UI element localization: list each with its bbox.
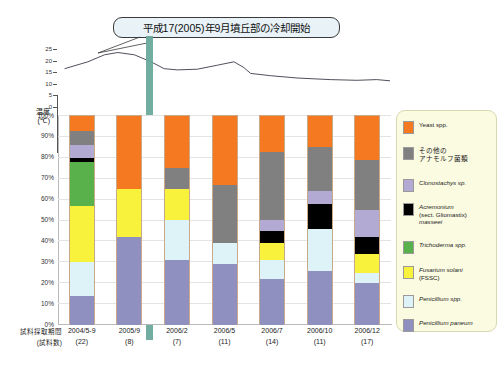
x-axis-sample-count: (7) <box>150 336 204 347</box>
bar-segment <box>355 210 379 237</box>
cooling-start-callout-text: 平成17(2005)年9月墳丘部の冷却開始 <box>143 20 311 35</box>
y-axis-tick-label: 50% <box>28 216 54 223</box>
x-axis-sample-count: (8) <box>102 336 156 347</box>
bar-segment <box>308 204 332 229</box>
bar-segment <box>308 229 332 271</box>
y-axis-tick-label: 90% <box>28 132 54 139</box>
y-axis-tick-label: 100% <box>28 112 54 119</box>
y-axis-tick-label: 70% <box>28 174 54 181</box>
bar-segment <box>213 116 237 185</box>
y-axis-tick-label: 30% <box>28 258 54 265</box>
bar-segment <box>165 116 189 168</box>
bar-segment <box>260 220 284 230</box>
legend-label: Yeast spp. <box>419 121 497 129</box>
stacked-bar[interactable] <box>116 115 142 324</box>
bar-segment <box>260 243 284 260</box>
bar-segment <box>355 116 379 160</box>
x-axis-date-label: 2004/5-9 <box>55 326 109 336</box>
bar-segment <box>213 243 237 264</box>
stacked-bar[interactable] <box>212 115 238 324</box>
legend-item[interactable]: Fusarium solani(FSSC) <box>403 266 497 281</box>
stacked-bar-plot <box>58 115 391 324</box>
legend-item[interactable]: Penicillium paneum <box>403 319 497 332</box>
bar-segment <box>70 116 94 131</box>
bar-segment <box>165 189 189 220</box>
x-axis-category: 2004/5-9(22) <box>55 326 109 347</box>
y-axis-tick-label: 20% <box>28 279 54 286</box>
bar-segment <box>260 116 284 152</box>
bar-segment <box>308 147 332 191</box>
bar-segment <box>165 220 189 260</box>
x-axis-category: 2006/10(11) <box>293 326 347 347</box>
bar-segment <box>70 206 94 262</box>
stacked-bar[interactable] <box>307 115 333 324</box>
bar-segment <box>213 264 237 325</box>
bar-segment <box>355 273 379 283</box>
legend-swatch <box>403 295 414 308</box>
y-axis-tick-label: 80% <box>28 153 54 160</box>
bar-segment <box>355 254 379 273</box>
x-axis-sample-count: (14) <box>245 336 299 347</box>
stacked-bar[interactable] <box>259 115 285 324</box>
stacked-bar[interactable] <box>164 115 190 324</box>
bar-segment <box>260 279 284 325</box>
x-axis-date-label: 2006/10 <box>293 326 347 336</box>
stacked-bar[interactable] <box>69 115 95 324</box>
legend-swatch <box>403 266 414 279</box>
x-axis-category: 2006/12(17) <box>340 326 394 347</box>
y-axis-tick-label: 40% <box>28 237 54 244</box>
legend-swatch <box>403 203 414 216</box>
x-axis-date-label: 2005/9 <box>102 326 156 336</box>
bar-segment <box>165 168 189 189</box>
legend-item[interactable]: Yeast spp. <box>403 121 497 134</box>
bar-segment <box>70 162 94 206</box>
y-axis-tick-label: 10% <box>28 300 54 307</box>
legend-swatch <box>403 147 414 160</box>
x-axis-category: 2006/2(7) <box>150 326 204 347</box>
legend-swatch <box>403 179 414 192</box>
x-axis-date-label: 2006/5 <box>198 326 252 336</box>
x-axis-date-label: 2006/7 <box>245 326 299 336</box>
x-axis: 試料採取期間 (試料数) 2004/5-9(22)2005/9(8)2006/2… <box>0 326 400 356</box>
bar-segment <box>117 237 141 325</box>
bar-segment <box>260 260 284 279</box>
y-axis-tick-group: 100%90%80%70%60%50%40%30%20%10%0% <box>24 115 54 330</box>
legend-item[interactable]: Acremonium(sect. Gliomastix)masseei <box>403 203 497 226</box>
legend-label: Fusarium solani(FSSC) <box>419 266 497 281</box>
bar-segment <box>308 271 332 325</box>
bar-segment <box>70 145 94 158</box>
bar-segment <box>308 116 332 147</box>
bar-segment <box>260 231 284 244</box>
legend-item[interactable]: Penicillium spp. <box>403 295 497 308</box>
x-axis-title: 試料採取期間 (試料数) <box>6 326 62 348</box>
x-axis-date-label: 2006/2 <box>150 326 204 336</box>
stacked-bar[interactable] <box>354 115 380 324</box>
legend-label: Acremonium(sect. Gliomastix)masseei <box>419 203 497 226</box>
bar-segment <box>355 160 379 210</box>
legend-label: その他のアナモルフ菌類 <box>419 147 497 163</box>
x-axis-sample-count: (11) <box>293 336 347 347</box>
chart-page: 平成17(2005)年9月墳丘部の冷却開始 温度 (℃) 2520151050 … <box>0 0 501 367</box>
x-axis-sample-count: (11) <box>198 336 252 347</box>
legend-item[interactable]: Trichoderma spp. <box>403 241 497 254</box>
legend-label: Trichoderma spp. <box>419 241 497 249</box>
bar-segment <box>70 296 94 325</box>
x-axis-category: 2006/5(11) <box>198 326 252 347</box>
legend-item[interactable]: Clonostachys sp. <box>403 179 497 192</box>
bar-segment <box>355 237 379 254</box>
bar-segment <box>165 260 189 325</box>
x-axis-category: 2006/7(14) <box>245 326 299 347</box>
legend-swatch <box>403 121 414 134</box>
bar-segment <box>70 131 94 146</box>
x-axis-sample-count: (17) <box>340 336 394 347</box>
bar-segment <box>355 283 379 325</box>
legend: Yeast spp.その他のアナモルフ菌類Clonostachys sp.Acr… <box>396 110 497 332</box>
x-axis-date-label: 2006/12 <box>340 326 394 336</box>
x-axis-sample-count: (22) <box>55 336 109 347</box>
x-axis-category: 2005/9(8) <box>102 326 156 347</box>
bar-segment <box>213 185 237 244</box>
temperature-line-series <box>0 46 400 111</box>
legend-item[interactable]: その他のアナモルフ菌類 <box>403 147 497 163</box>
legend-swatch <box>403 319 414 332</box>
legend-label: Clonostachys sp. <box>419 179 497 187</box>
